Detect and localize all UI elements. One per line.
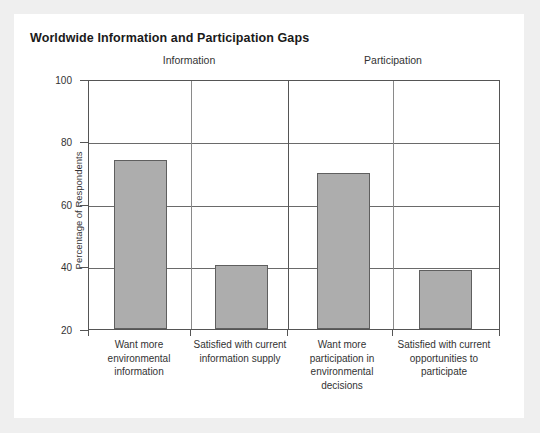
- y-tick-100: [80, 80, 88, 81]
- category-label-3-line-1: Want more: [290, 338, 394, 352]
- x-tick-right-edge: [499, 330, 500, 336]
- y-tick-label-100: 100: [46, 75, 72, 86]
- category-label-1-line-2: environmental: [87, 352, 191, 366]
- category-label-2-line-1: Satisfied with current: [181, 338, 299, 352]
- bar-want-more-participation-in-environmental-decisions: [317, 173, 370, 329]
- y-tick-label-80: 80: [46, 137, 72, 148]
- y-tick-60: [80, 205, 88, 206]
- x-tick-boundary-2: [287, 330, 288, 336]
- y-axis-title: Percentage of Respondents: [73, 111, 84, 311]
- category-label-2: Satisfied with current information suppl…: [181, 338, 299, 365]
- y-tick-label-40: 40: [46, 262, 72, 273]
- figure-card: Worldwide Information and Participation …: [14, 14, 524, 418]
- y-tick-40: [80, 267, 88, 268]
- x-tick-boundary-1: [190, 330, 191, 336]
- category-label-1-line-3: information: [87, 365, 191, 379]
- category-divider-1: [191, 81, 192, 329]
- y-tick-label-20: 20: [46, 325, 72, 336]
- category-label-3-line-4: decisions: [290, 379, 394, 393]
- category-label-4-line-1: Satisfied with current: [385, 338, 503, 352]
- y-tick-80: [80, 142, 88, 143]
- bar-satisfied-with-current-opportunities-to-participate: [419, 270, 472, 329]
- panel-divider: [288, 81, 289, 329]
- category-label-4-line-2: opportunities to: [385, 352, 503, 366]
- category-label-2-line-2: information supply: [181, 352, 299, 366]
- x-tick-boundary-3: [392, 330, 393, 336]
- category-label-3: Want more participation in environmental…: [290, 338, 394, 392]
- y-tick-label-60: 60: [46, 200, 72, 211]
- gridline-80: [89, 143, 499, 144]
- category-label-3-line-2: participation in: [290, 352, 394, 366]
- category-label-1-line-1: Want more: [87, 338, 191, 352]
- y-tick-20: [80, 330, 88, 331]
- x-tick-left-edge: [88, 330, 89, 336]
- bar-satisfied-with-current-information-supply: [215, 265, 268, 329]
- category-label-3-line-3: environmental: [290, 365, 394, 379]
- category-label-4-line-3: participate: [385, 365, 503, 379]
- category-label-1: Want more environmental information: [87, 338, 191, 379]
- category-label-4: Satisfied with current opportunities to …: [385, 338, 503, 379]
- plot-area: [88, 80, 500, 330]
- category-divider-3: [393, 81, 394, 329]
- chart-title: Worldwide Information and Participation …: [30, 31, 309, 45]
- bar-want-more-environmental-information: [114, 160, 167, 329]
- panel-header-participation: Participation: [364, 54, 422, 66]
- panel-header-information: Information: [163, 54, 216, 66]
